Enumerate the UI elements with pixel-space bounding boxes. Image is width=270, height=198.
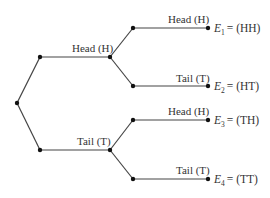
node-upper-start <box>38 55 42 59</box>
label-second-head-1: Head (H) <box>168 13 210 26</box>
leaf-hh <box>206 26 210 30</box>
edge-h-lower <box>110 57 133 86</box>
label-first-head: Head (H) <box>72 42 114 55</box>
node-head <box>108 55 112 59</box>
tree-diagram: Head (H) Tail (T) Head (H) Tail (T) Head… <box>0 0 270 198</box>
node-root <box>15 101 19 105</box>
label-second-tail-1: Tail (T) <box>176 72 210 85</box>
leaf-tt <box>206 177 210 181</box>
edge-root-upper <box>17 57 40 103</box>
label-second-head-2: Head (H) <box>168 105 210 118</box>
event-e4: E4= (TT) <box>213 173 258 188</box>
node-t-lower <box>131 177 135 181</box>
node-tail <box>108 148 112 152</box>
leaf-ht <box>206 84 210 88</box>
node-h-lower <box>131 84 135 88</box>
node-t-upper <box>131 118 135 122</box>
event-e1: E1= (HH) <box>213 22 261 37</box>
edge-t-upper <box>110 120 133 150</box>
edge-h-upper <box>110 28 133 57</box>
edge-root-lower <box>17 103 40 150</box>
node-h-upper <box>131 26 135 30</box>
event-e2: E2= (HT) <box>213 80 259 95</box>
edge-t-lower <box>110 150 133 179</box>
label-first-tail: Tail (T) <box>77 135 111 148</box>
leaf-th <box>206 118 210 122</box>
label-second-tail-2: Tail (T) <box>176 164 210 177</box>
event-e3: E3= (TH) <box>213 114 259 129</box>
node-lower-start <box>38 148 42 152</box>
